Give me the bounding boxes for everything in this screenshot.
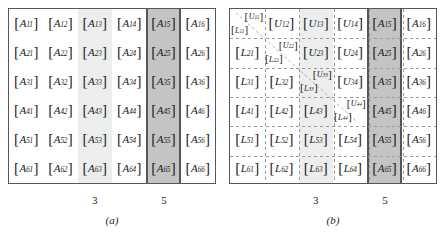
bracket-right: ]: [136, 46, 141, 59]
bracket-right: ]: [289, 17, 294, 30]
block-symbol: A: [20, 18, 27, 29]
bracket-right: ]: [102, 75, 107, 88]
block-subscript: 53: [315, 138, 322, 145]
matrix-block: [A26]: [407, 46, 432, 59]
diagonal-stacked-block: [U44][L44]: [335, 100, 365, 122]
bracket-right: ]: [254, 75, 259, 88]
matrix-block: [A16]: [407, 17, 432, 30]
block-subscript: 46: [419, 109, 426, 116]
bracket-left: [: [269, 17, 274, 30]
matrix-cell: [A24]: [112, 38, 146, 67]
column-label-5-a: 5: [154, 194, 174, 206]
lower-block: [L11]: [231, 26, 248, 35]
matrix-block: [A41]: [14, 104, 39, 117]
matrix-block: [A14]: [117, 17, 142, 30]
block-symbol: A: [122, 134, 129, 145]
block-symbol: A: [157, 134, 164, 145]
block-symbol: A: [88, 105, 95, 116]
block-subscript: 16: [419, 22, 426, 29]
block-symbol: U: [343, 47, 351, 58]
block-subscript: 34: [351, 80, 358, 87]
matrix-block: [L42]: [270, 104, 294, 117]
matrix-block: [U12]: [269, 17, 295, 30]
bracket-left: [: [151, 75, 156, 88]
bracket-right: ]: [392, 162, 397, 175]
matrix-cell: [A52]: [43, 125, 77, 154]
bracket-right: ]: [324, 17, 329, 30]
block-symbol: A: [19, 105, 26, 116]
block-symbol: U: [282, 42, 288, 50]
matrix-grid-a: [A11][A12][A13][A14][A15][A16][A21][A22]…: [8, 8, 216, 184]
block-subscript: 64: [350, 167, 357, 174]
matrix-cell: [A32]: [43, 67, 77, 96]
bracket-left: [: [337, 75, 342, 88]
block-subscript: 61: [26, 167, 33, 174]
block-symbol: A: [191, 76, 198, 87]
block-symbol: A: [157, 18, 164, 29]
block-subscript: 32: [60, 80, 67, 87]
bracket-right: ]: [314, 84, 318, 93]
bracket-right: ]: [136, 162, 141, 175]
bracket-left: [: [235, 162, 240, 175]
block-subscript: 25: [163, 51, 170, 58]
matrix-block: [A34]: [117, 75, 142, 88]
matrix-block: [A23]: [83, 46, 108, 59]
matrix-block: [A63]: [83, 162, 108, 175]
matrix-block: [A32]: [48, 75, 73, 88]
bracket-right: ]: [323, 104, 328, 117]
matrix-block: [L41]: [235, 104, 259, 117]
block-symbol: A: [412, 105, 419, 116]
block-subscript: 42: [60, 109, 67, 116]
matrix-cell: [A15]: [146, 9, 180, 38]
matrix-cell: [A42]: [43, 96, 77, 125]
bracket-right: ]: [102, 17, 107, 30]
bracket-left: [: [14, 17, 19, 30]
bracket-right: ]: [33, 17, 38, 30]
block-subscript: 52: [281, 138, 288, 145]
bracket-left: [: [186, 75, 191, 88]
block-symbol: A: [19, 134, 26, 145]
matrix-block: [A65]: [372, 162, 397, 175]
block-subscript: 36: [198, 80, 205, 87]
bracket-right: ]: [171, 133, 176, 146]
matrix-block: [A55]: [372, 133, 397, 146]
bracket-right: ]: [171, 17, 176, 30]
block-subscript: 15: [163, 22, 170, 29]
block-subscript: 22: [60, 51, 67, 58]
bracket-left: [: [303, 46, 308, 59]
block-symbol: A: [412, 18, 419, 29]
block-subscript: 12: [282, 22, 289, 29]
bracket-right: ]: [136, 75, 141, 88]
block-subscript: 12: [60, 22, 67, 29]
matrix-cell: [L63]: [299, 154, 333, 183]
bracket-left: [: [186, 162, 191, 175]
block-subscript: 14: [351, 22, 358, 29]
bracket-right: ]: [392, 104, 397, 117]
bracket-right: ]: [323, 133, 328, 146]
block-symbol: A: [122, 105, 129, 116]
matrix-block: [A61]: [14, 162, 39, 175]
matrix-block: [L64]: [338, 162, 362, 175]
block-subscript: 13: [95, 22, 102, 29]
matrix-cell: [A61]: [9, 154, 43, 183]
matrix-grid-b: [U11][L11][U12][U13][U14][A15][A16][L21]…: [229, 8, 437, 184]
bracket-right: ]: [358, 17, 363, 30]
bracket-left: [: [244, 12, 248, 21]
matrix-block: [L63]: [304, 162, 328, 175]
bracket-right: ]: [357, 133, 362, 146]
matrix-cell: [A55]: [146, 125, 180, 154]
matrix-block: [A62]: [48, 162, 73, 175]
matrix-block: [A11]: [14, 17, 38, 30]
matrix-cell: [A51]: [9, 125, 43, 154]
block-subscript: 15: [384, 22, 391, 29]
bracket-left: [: [83, 75, 88, 88]
block-subscript: 64: [129, 167, 136, 174]
lower-block: [L44]: [334, 113, 352, 122]
block-symbol: A: [157, 163, 164, 174]
panel-a: [A11][A12][A13][A14][A15][A16][A21][A22]…: [8, 8, 216, 184]
bracket-left: [: [372, 104, 377, 117]
matrix-cells-b: [U11][L11][U12][U13][U14][A15][A16][L21]…: [230, 9, 436, 183]
block-subscript: 24: [351, 51, 358, 58]
bracket-right: ]: [33, 46, 38, 59]
matrix-block: [U34]: [337, 75, 363, 88]
